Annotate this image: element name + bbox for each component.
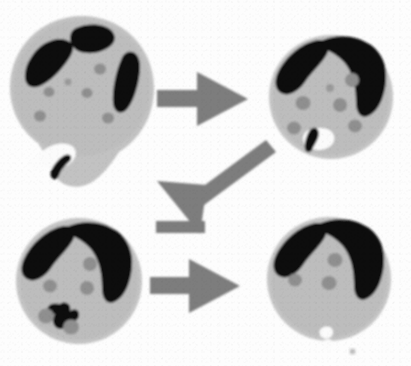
top-right-granule-5 [348, 120, 362, 133]
cell-progression-svg [0, 0, 411, 366]
top-left-granule-3 [82, 88, 93, 98]
top-left-granule-4 [34, 111, 46, 122]
bottom-left-granule-4 [38, 309, 54, 324]
top-right-granule-4 [287, 122, 301, 135]
bottom-left-cell [16, 218, 142, 344]
figure-canvas: Cell morphology progression micrograph s… [0, 0, 411, 366]
bottom-right-granule-1 [328, 253, 343, 267]
top-right-granule-6 [326, 84, 334, 92]
top-left-granule-1 [94, 64, 106, 75]
bottom-left-granule-5 [63, 320, 79, 335]
bottom-left-granule-2 [43, 280, 57, 293]
top-right-granule-1 [345, 73, 359, 87]
bottom-right-granule-3 [322, 276, 337, 290]
top-left-granule-5 [102, 113, 114, 124]
stray-speck [350, 349, 355, 354]
bottom-left-granule-1 [83, 257, 97, 271]
bottom-right-granule-2 [288, 274, 302, 287]
top-left-granule-2 [44, 87, 55, 97]
bottom-left-granule-3 [80, 281, 94, 295]
top-right-granule-3 [333, 98, 347, 112]
top-left-granule-6 [65, 79, 72, 86]
arrow-diagonal-base [156, 221, 205, 233]
top-right-granule-2 [296, 96, 311, 110]
top-right-cell [269, 35, 393, 159]
